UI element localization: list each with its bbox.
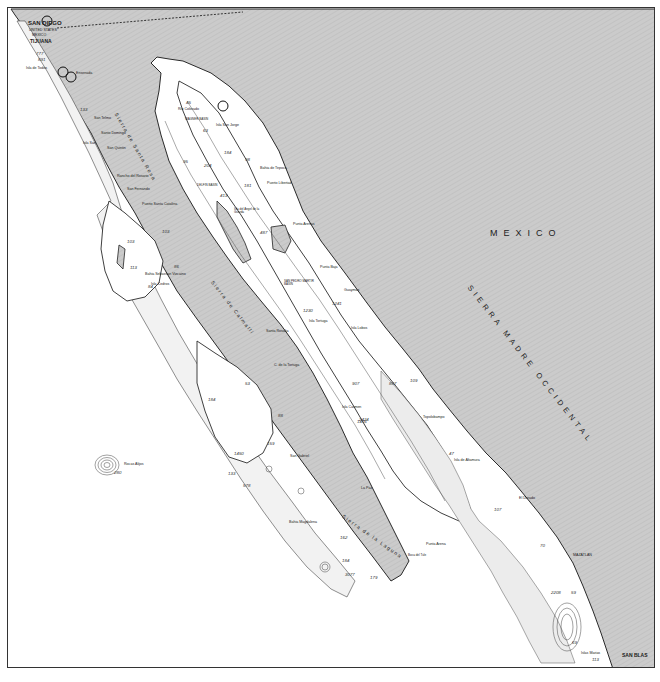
depth-sounding: 45 [186, 101, 191, 105]
depth-sounding: 47 [449, 452, 454, 456]
place-label-guaymas: Guaymas [344, 289, 359, 293]
place-label-el-dorado: El Dorado [519, 497, 535, 501]
place-label-c-de-la-tortuga: C. de la Tortuga [274, 364, 299, 368]
depth-sounding: 109 [410, 379, 417, 383]
depth-sounding: 53 [245, 382, 250, 386]
place-label-ensenada: Ensenada [76, 72, 92, 76]
place-label-bahia-sebastian-vizcaino: Bahia Sebastian Vizcaino [145, 273, 186, 277]
place-label-islas-marias: Islas Marias [581, 652, 600, 656]
depth-sounding: 179 [370, 576, 377, 580]
depth-sounding: 3077 [345, 573, 355, 577]
place-label-punta-arenas: Punta Arenas [293, 223, 315, 227]
place-label-wagner-basin: WAGNER BASIN [185, 118, 208, 121]
map-frame: MEXICO SIERRA MADRE OCCIDENTAL Sierra de… [7, 7, 655, 668]
place-label-san-fernando: San Fernando [127, 188, 150, 192]
depth-sounding: 2208 [551, 591, 561, 595]
depth-sounding: 113 [592, 658, 599, 662]
depth-sounding: 84 [148, 285, 153, 289]
depth-sounding: 578 [243, 484, 250, 488]
place-label-isla-san-jorge: Isla San Jorge [216, 124, 239, 128]
depth-sounding: 1230 [303, 309, 313, 313]
depth-sounding: 113 [130, 266, 137, 270]
place-label-boca-del-tule: Boca del Tule [408, 554, 426, 557]
depth-sounding: 103 [162, 230, 169, 234]
depth-sounding: 162 [340, 536, 347, 540]
depth-sounding: 95 [183, 160, 188, 164]
depth-sounding: 159 [267, 442, 274, 446]
depth-sounding: 777 [36, 52, 43, 56]
city-label-tijuana: TIJUANA [30, 39, 52, 44]
place-label-bahia-magdalena: Bahia Magdalena [289, 521, 317, 525]
depth-sounding: 181 [244, 184, 251, 188]
depth-sounding: 95 [579, 667, 584, 668]
place-label-rosario: Rancho del Rosario [117, 175, 149, 179]
depth-sounding: 907 [352, 382, 359, 386]
place-label-mazatlan: MAZATLAN [573, 554, 592, 558]
place-label-san-quintin: San Quintin [107, 147, 126, 151]
depth-sounding: 1241 [332, 302, 342, 306]
place-label-punta-baja: Punta Baja [320, 266, 338, 270]
depth-sounding: 86 [174, 265, 179, 269]
place-label-topolobampo: Topolobampo [423, 416, 445, 420]
depth-sounding: 204 [204, 164, 211, 168]
depth-sounding: 184 [208, 398, 215, 402]
place-label-delfin-basin: DELFIN BASIN [197, 184, 218, 187]
depth-sounding: 107 [494, 508, 501, 512]
place-label-san-telmo: San Telmo [94, 117, 111, 121]
depth-sounding: 133 [80, 108, 87, 112]
place-label-isla-angel: Isla del Angel de la Guarda [234, 208, 264, 214]
depth-sounding: 487 [260, 231, 267, 235]
place-label-isla-cedros: Isla Cedros [151, 283, 169, 287]
map-canvas [8, 8, 655, 668]
place-label-isla-san-martin: Isla San [83, 142, 96, 146]
depth-sounding: 1450 [234, 452, 244, 456]
depth-sounding: 184 [342, 559, 349, 563]
place-label-la-paz: La Paz [361, 487, 372, 491]
place-label-punta-arena: Punta Arena [426, 543, 446, 547]
country-label-mexico: MEXICO [490, 229, 562, 238]
depth-sounding: 63 [203, 129, 208, 133]
place-label-rocas-alijos: Rocas Alijos [124, 463, 144, 467]
depth-sounding: 887 [389, 382, 396, 386]
depth-sounding: 184 [224, 151, 231, 155]
place-label-santo-domingo: Santo Domingo [101, 132, 126, 136]
place-label-san-pedro-martir-basin: SAN PEDRO MARTIR BASIN [284, 280, 314, 286]
place-label-rio-colorado: Rio Colorado [178, 108, 199, 112]
depth-sounding: 280 [114, 471, 121, 475]
depth-sounding: 891 [38, 58, 45, 62]
depth-sounding: 69 [572, 641, 577, 645]
depth-sounding: 413 [220, 194, 227, 198]
place-label-santa-rosalia: Santa Rosalia [266, 330, 288, 334]
depth-sounding: 2424 [359, 418, 369, 422]
place-label-puerto-santa-catalina: Puerto Santa Catalina [142, 203, 177, 207]
depth-sounding: 88 [278, 414, 283, 418]
depth-sounding: 59 [571, 591, 576, 595]
depth-sounding: 2808 [558, 667, 568, 668]
place-label-isla-de-altamura: Isla de Altamura [454, 459, 480, 463]
place-label-puerto-libertad: Puerto Libertad [267, 182, 292, 186]
depth-sounding: 70 [540, 544, 545, 548]
place-label-isla-de-todos-santos: Isla de Todos [26, 67, 47, 71]
city-label-san-diego: SAN DIEGO [28, 20, 62, 26]
place-label-san-gabriel: San Gabriel [290, 455, 309, 459]
place-label-isla-carmen: Isla Carmen [342, 406, 361, 410]
place-label-isla-lobos: Isla Lobos [351, 327, 367, 331]
place-label-isla-tortuga: Isla Tortuga [309, 320, 328, 324]
city-label-san-blas: SAN BLAS [622, 653, 648, 658]
depth-sounding: 98 [245, 158, 250, 162]
depth-sounding: 133 [228, 472, 235, 476]
depth-sounding: 103 [127, 240, 134, 244]
place-label-bahia-de-tepoca: Bahia de Tepoca [260, 167, 287, 171]
